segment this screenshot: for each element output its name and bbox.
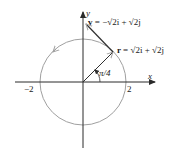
- tick-label-2: 2: [127, 84, 132, 94]
- velocity-label: v = −√2i + √2j: [88, 17, 141, 27]
- angle-label: π/4: [99, 68, 111, 78]
- position-label-expr: √2i + √2j: [130, 45, 163, 55]
- tick-label-neg-2: −2: [24, 84, 34, 94]
- x-axis-label: x: [147, 71, 152, 81]
- velocity-label-expr: −√2i + √2j: [102, 17, 141, 27]
- position-label: r = √2i + √2j: [117, 45, 164, 55]
- velocity-vector-v: [86, 24, 113, 52]
- position-label-prefix: r =: [117, 45, 130, 55]
- velocity-label-prefix: v =: [88, 17, 102, 27]
- figure: x y −2 2 π/4 v = −√2i + √2j r = √2i + √2…: [0, 0, 182, 154]
